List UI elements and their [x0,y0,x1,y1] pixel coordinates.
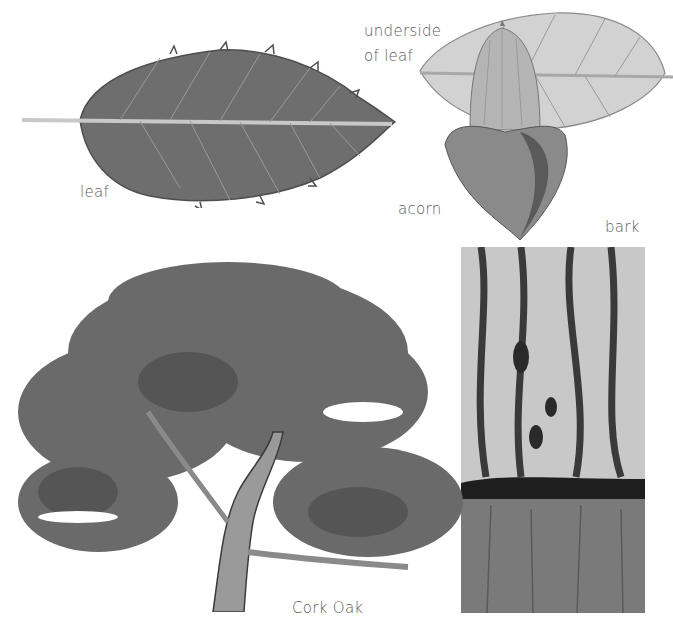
bark-illustration [461,247,645,613]
tree-caption: Cork Oak [292,599,363,617]
underside-leaf-label-line1: underside [364,22,441,40]
leaf-illustration [20,38,400,208]
acorn-label: acorn [398,200,442,218]
bark-label: bark [605,218,640,236]
acorn-illustration [440,20,580,245]
leaf-label: leaf [80,183,109,201]
cork-oak-tree-illustration [8,262,468,612]
underside-leaf-label-line2: of leaf [364,47,413,65]
